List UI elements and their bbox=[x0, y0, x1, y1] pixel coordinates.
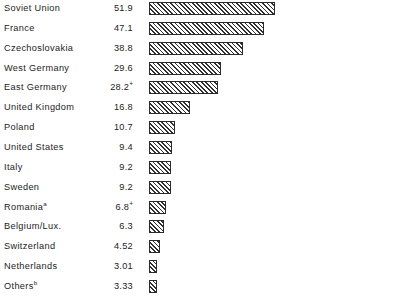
bar-row: Belgium/Lux.6.3 bbox=[0, 217, 396, 237]
bar-category-label: Netherlands bbox=[4, 257, 57, 277]
bar bbox=[149, 101, 190, 114]
bar-row: West Germany29.6 bbox=[0, 59, 396, 79]
bar bbox=[149, 201, 166, 214]
bar-value-label: 28.2+ bbox=[60, 78, 133, 98]
value-plus-marker: + bbox=[129, 80, 133, 87]
bar-row: Othersb3.33 bbox=[0, 277, 396, 297]
bar-value-label: 9.2 bbox=[60, 158, 133, 178]
bar-category-label: Poland bbox=[4, 118, 35, 138]
bar-category-label: France bbox=[4, 19, 35, 39]
bar-track bbox=[149, 280, 157, 293]
bar bbox=[149, 220, 164, 233]
bar bbox=[149, 2, 275, 15]
bar-value-label: 38.8 bbox=[60, 39, 133, 59]
bar-row: United Kingdom16.8 bbox=[0, 98, 396, 118]
bar bbox=[149, 161, 171, 174]
bar bbox=[149, 240, 160, 253]
bar-row: Czechoslovakia38.8 bbox=[0, 39, 396, 59]
bar-track bbox=[149, 62, 221, 75]
bar-row: East Germany28.2+ bbox=[0, 78, 396, 98]
bar-row: France47.1 bbox=[0, 19, 396, 39]
bar-track bbox=[149, 240, 160, 253]
bar bbox=[149, 280, 157, 293]
bar-track bbox=[149, 2, 275, 15]
bar-value-label: 10.7 bbox=[60, 118, 133, 138]
bar-category-label: Othersb bbox=[4, 277, 37, 297]
bar bbox=[149, 81, 218, 94]
bar-value-label: 9.2 bbox=[60, 178, 133, 198]
bar-row: Italy9.2 bbox=[0, 158, 396, 178]
bar-category-label: Italy bbox=[4, 158, 23, 178]
bar-row: Soviet Union51.9 bbox=[0, 0, 396, 19]
bar bbox=[149, 141, 172, 154]
bar-value-label: 51.9 bbox=[60, 0, 133, 19]
bar-row: United States9.4 bbox=[0, 138, 396, 158]
bar-row: Poland10.7 bbox=[0, 118, 396, 138]
bar bbox=[149, 260, 157, 273]
value-plus-marker: + bbox=[129, 199, 133, 206]
bar-track bbox=[149, 141, 172, 154]
bar-track bbox=[149, 22, 264, 35]
bar-row: Switzerland4.52 bbox=[0, 237, 396, 257]
bar-row: Romaniaa6.8+ bbox=[0, 198, 396, 218]
bar-track bbox=[149, 181, 171, 194]
bar-row: Netherlands3.01 bbox=[0, 257, 396, 277]
bar bbox=[149, 22, 264, 35]
bar-category-label: United States bbox=[4, 138, 64, 158]
bar-category-label: Sweden bbox=[4, 178, 39, 198]
bar-track bbox=[149, 81, 218, 94]
bar-value-label: 29.6 bbox=[60, 59, 133, 79]
bar bbox=[149, 62, 221, 75]
bar-value-label: 3.01 bbox=[60, 257, 133, 277]
bar-row: Sweden9.2 bbox=[0, 178, 396, 198]
bar-value-label: 3.33 bbox=[60, 277, 133, 297]
bar-value-label: 47.1 bbox=[60, 19, 133, 39]
bar-value-label: 6.3 bbox=[60, 217, 133, 237]
category-footnote-marker: a bbox=[43, 199, 46, 206]
bar-track bbox=[149, 42, 243, 55]
bar-category-label: Switzerland bbox=[4, 237, 55, 257]
horizontal-bar-chart: Soviet Union51.9France47.1Czechoslovakia… bbox=[0, 0, 396, 301]
bar-value-label: 9.4 bbox=[60, 138, 133, 158]
bar-track bbox=[149, 121, 175, 134]
bar-track bbox=[149, 201, 166, 214]
bar-track bbox=[149, 260, 157, 273]
bar bbox=[149, 181, 171, 194]
bar-track bbox=[149, 220, 164, 233]
bar bbox=[149, 42, 243, 55]
bar-category-label: Romaniaa bbox=[4, 198, 47, 218]
bar-value-label: 4.52 bbox=[60, 237, 133, 257]
bar-track bbox=[149, 101, 190, 114]
category-footnote-marker: b bbox=[34, 279, 37, 286]
bar-value-label: 16.8 bbox=[60, 98, 133, 118]
bar-value-label: 6.8+ bbox=[60, 198, 133, 218]
bar-track bbox=[149, 161, 171, 174]
bar bbox=[149, 121, 175, 134]
bar-category-label: Belgium/Lux. bbox=[4, 217, 61, 237]
bar-category-label: Soviet Union bbox=[4, 0, 60, 19]
bar-category-label: East Germany bbox=[4, 78, 67, 98]
